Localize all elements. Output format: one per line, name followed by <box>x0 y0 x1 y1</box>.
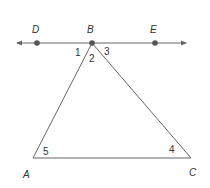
point-d <box>34 40 40 46</box>
angle-label-2: 2 <box>89 53 95 64</box>
diagram-svg: D B E A C 1 2 3 4 5 <box>0 0 210 188</box>
segment-ba <box>33 43 92 158</box>
angle-label-5: 5 <box>43 146 49 157</box>
label-a: A <box>22 169 30 180</box>
label-e: E <box>150 24 157 35</box>
geometry-diagram: D B E A C 1 2 3 4 5 <box>0 0 210 188</box>
triangle-abc <box>33 43 191 158</box>
segment-bc <box>92 43 191 158</box>
left-arrowhead-icon <box>16 41 22 46</box>
angle-label-3: 3 <box>104 46 110 57</box>
label-d: D <box>32 24 39 35</box>
point-b <box>89 40 95 46</box>
angle-label-4: 4 <box>169 144 175 155</box>
point-e <box>152 40 158 46</box>
label-b: B <box>87 24 94 35</box>
line-de <box>16 41 187 46</box>
angle-label-1: 1 <box>75 47 81 58</box>
right-arrowhead-icon <box>181 41 187 46</box>
label-c: C <box>189 167 197 178</box>
